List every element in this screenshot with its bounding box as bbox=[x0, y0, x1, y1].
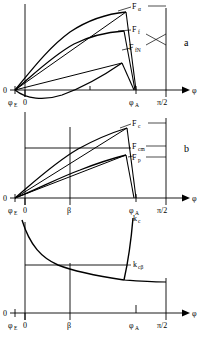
panel-c: k c k cβ 0 φ E 0 β φ A π/2 φ bbox=[3, 214, 197, 331]
panel-b-label-f-p-sub: p bbox=[138, 157, 141, 163]
panel-a-label-f-alpha-sub: α bbox=[138, 6, 141, 12]
panel-b-tick-label-beta: β bbox=[67, 206, 71, 215]
panel-c-tick-label-beta: β bbox=[67, 321, 71, 330]
panel-b-tick-label-phi-e-base: φ bbox=[8, 206, 13, 215]
panel-b-tick-label-phi-e-sub: E bbox=[14, 210, 18, 216]
panel-a-tick-label-phi-e-sub: E bbox=[14, 102, 18, 108]
panel-a-letter: a bbox=[184, 37, 189, 48]
panel-c-label-k-c-sub: c bbox=[138, 218, 141, 224]
panel-a-label-f-f-base: F bbox=[132, 25, 137, 34]
panel-c-label-k-c-base: k bbox=[133, 214, 137, 223]
panel-b-label-f-c-sub: c bbox=[138, 123, 141, 129]
panel-a-chord-f-alpha bbox=[15, 12, 126, 90]
panel-a-curve-f-fn bbox=[15, 63, 122, 98]
panel-b-chord-f-c bbox=[15, 128, 127, 198]
panel-a-origin-label: 0 bbox=[3, 86, 7, 95]
panel-b-tick-label-zero: 0 bbox=[23, 206, 27, 215]
panel-c-tick-label-phi-e-base: φ bbox=[8, 321, 13, 330]
panel-c-tick-label-phi-a-base: φ bbox=[129, 321, 134, 330]
panel-a-curve-f-f bbox=[15, 31, 124, 90]
panel-b-label-f-c-base: F bbox=[132, 119, 137, 128]
panel-a-tick-label-phi-a-base: φ bbox=[129, 98, 134, 107]
panel-c-tick-label-phi-e-sub: E bbox=[14, 325, 18, 331]
panel-a-label-f-f-sub: f bbox=[138, 29, 140, 35]
diagram-svg: F α F f F fN 0 φ E 0 φ A π/2 φ a bbox=[0, 0, 204, 346]
panel-b-letter: b bbox=[184, 143, 189, 154]
panel-c-curve-k-c-rise bbox=[124, 218, 133, 280]
panel-b-label-f-cm-sub: cm bbox=[138, 146, 145, 152]
panel-a-leader-f-f bbox=[118, 30, 131, 31]
panel-b-chord-f-p bbox=[15, 155, 126, 198]
panel-c-label-k-c-beta-sub: cβ bbox=[138, 264, 143, 270]
panel-c-tick-label-pi-half: π/2 bbox=[157, 321, 167, 330]
panel-b-leader-f-c bbox=[120, 124, 131, 128]
panel-a-x-arrow-icon bbox=[182, 87, 190, 94]
panel-c-tick-label-phi-a-sub: A bbox=[135, 325, 139, 331]
panel-b-x-arrow-icon bbox=[182, 195, 190, 202]
panel-c-curve-k-c bbox=[22, 220, 124, 280]
panel-b-origin-label: 0 bbox=[3, 194, 7, 203]
panel-a-tick-label-phi-a-sub: A bbox=[135, 102, 139, 108]
panel-c-origin-label: 0 bbox=[3, 309, 7, 318]
panel-c-label-k-c-beta-base: k bbox=[133, 260, 137, 269]
panel-c-curve-k-c-tail bbox=[124, 280, 166, 282]
panel-b-label-f-cm-base: F bbox=[132, 142, 137, 151]
panel-a-label-f-alpha-base: F bbox=[132, 2, 137, 11]
panel-b-label-f-p-base: F bbox=[132, 153, 137, 162]
panel-c-x-arrow-icon bbox=[182, 310, 190, 317]
panel-a-label-f-fn-sub: fN bbox=[135, 47, 141, 53]
panel-b-tick-label-pi-half: π/2 bbox=[157, 206, 167, 215]
panel-a-leader-f-alpha bbox=[118, 7, 131, 11]
panel-a-tick-label-phi-e-base: φ bbox=[8, 98, 13, 107]
figure-root: F α F f F fN 0 φ E 0 φ A π/2 φ a bbox=[0, 0, 204, 346]
panel-b-x-axis-label: φ bbox=[192, 194, 197, 203]
panel-c-x-axis-label: φ bbox=[192, 309, 197, 318]
panel-a-x-axis-label: φ bbox=[192, 86, 197, 95]
panel-c-tick-label-zero: 0 bbox=[23, 321, 27, 330]
panel-a-label-f-fn-base: F bbox=[129, 43, 134, 52]
panel-a-tick-label-pi-half: π/2 bbox=[157, 98, 167, 107]
panel-a-tick-label-zero: 0 bbox=[23, 98, 27, 107]
panel-b: F c F cm F p 0 φ E 0 β φ A π/2 φ b bbox=[3, 112, 197, 216]
panel-a: F α F f F fN 0 φ E 0 φ A π/2 φ a bbox=[3, 2, 197, 108]
